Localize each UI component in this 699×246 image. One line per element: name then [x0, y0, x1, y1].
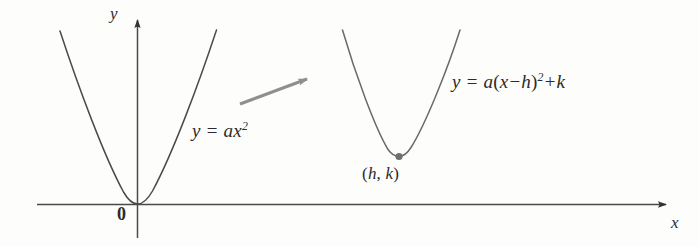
equation-basic-label: y = ax2 — [192, 121, 248, 140]
x-axis-label: x — [671, 214, 679, 231]
equation-basic-exponent: 2 — [242, 120, 248, 133]
equation-shift-lead: y = a — [452, 71, 493, 92]
equation-shift-plus-operator: + — [544, 71, 557, 92]
equation-vertex-form-label: y = a(x−h)2+k — [452, 72, 565, 91]
equation-shift-exponent: 2 — [538, 71, 544, 84]
vertex-coordinate-label: (h, k) — [362, 165, 399, 182]
equation-shift-k: k — [557, 71, 566, 92]
vertex-close-paren: ) — [393, 164, 399, 183]
equation-shift-h: h — [521, 71, 531, 92]
vertex-point-marker — [395, 153, 402, 160]
equation-basic-body: y = ax — [192, 120, 242, 141]
vertex-comma: , — [377, 164, 381, 183]
origin-label: 0 — [117, 205, 126, 223]
transformation-arrow — [240, 79, 307, 104]
parabola-shifted-curve — [343, 30, 461, 157]
figure-canvas — [0, 0, 699, 246]
equation-shift-minus-operator: − — [508, 71, 521, 92]
vertex-h-value: h — [368, 164, 377, 183]
parabola-transformation-figure: y x 0 y = ax2 y = a(x−h)2+k (h, k) — [0, 0, 699, 246]
y-axis-label: y — [110, 5, 118, 22]
